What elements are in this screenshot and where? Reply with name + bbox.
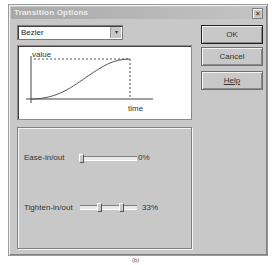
ease-slider-thumb[interactable]	[79, 154, 84, 163]
help-button[interactable]: Help	[201, 71, 263, 90]
figure-caption: (b)	[132, 257, 139, 263]
tighten-slider-thumb-in[interactable]	[97, 203, 102, 212]
curve-preview: value time	[17, 45, 192, 120]
tighten-slider[interactable]	[80, 205, 137, 210]
x-axis-label: time	[128, 104, 143, 113]
window-title: Transition Options	[14, 8, 88, 17]
help-label: Help	[224, 76, 240, 85]
tighten-value: 33%	[142, 203, 158, 212]
y-axis-label: value	[32, 50, 51, 59]
ease-value: 0%	[138, 153, 150, 162]
tighten-slider-thumb-out[interactable]	[119, 203, 124, 212]
ok-button[interactable]: OK	[201, 25, 263, 44]
curve-type-value: Bezier	[21, 28, 44, 37]
ease-label: Ease-in/out	[24, 153, 64, 162]
chevron-down-icon[interactable]: ▾	[110, 27, 121, 38]
ease-slider[interactable]	[80, 156, 137, 161]
close-icon[interactable]: ✕	[252, 8, 263, 19]
options-panel: Ease-in/out 0% Tighten-in/out 33%	[17, 127, 192, 249]
curve-type-dropdown[interactable]: Bezier ▾	[17, 25, 123, 40]
tighten-label: Tighten-in/out	[24, 203, 73, 212]
cancel-button[interactable]: Cancel	[201, 47, 263, 66]
transition-options-dialog: Transition Options ✕ Bezier ▾ OK Cancel …	[8, 4, 268, 256]
title-bar[interactable]: Transition Options ✕	[11, 7, 265, 19]
